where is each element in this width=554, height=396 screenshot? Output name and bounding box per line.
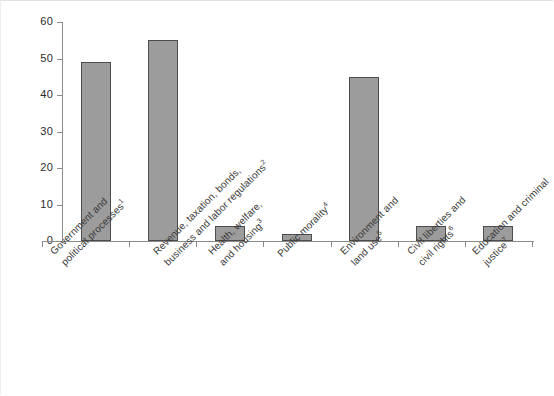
bar — [416, 226, 446, 241]
y-tick-label: 20 — [40, 161, 53, 173]
y-tick-30: 30 — [0, 132, 62, 133]
y-tick-label: 10 — [40, 198, 53, 210]
y-tick-50: 50 — [0, 59, 62, 60]
y-tick-label: 60 — [40, 15, 53, 27]
y-tick-label: 40 — [40, 88, 53, 100]
y-tick-20: 20 — [0, 168, 62, 169]
x-tick-mark — [532, 241, 533, 247]
y-tick-label: 0 — [47, 234, 53, 246]
y-tick-10: 10 — [0, 205, 62, 206]
x-tick-mark — [465, 241, 466, 247]
x-tick-mark — [129, 241, 130, 247]
y-tick-40: 40 — [0, 95, 62, 96]
bar — [215, 226, 245, 241]
y-tick-label: 30 — [40, 125, 53, 137]
bar — [349, 77, 379, 241]
x-tick-mark — [398, 241, 399, 247]
x-axis-line — [42, 241, 534, 242]
bar-chart: 0102030405060 Government andpolitical pr… — [0, 0, 554, 396]
bar — [81, 62, 111, 241]
x-tick-mark — [196, 241, 197, 247]
y-tick-label: 50 — [40, 52, 53, 64]
bars-group — [62, 22, 532, 241]
bar — [483, 226, 513, 241]
bar — [282, 234, 312, 241]
y-tick-60: 60 — [0, 22, 62, 23]
x-tick-mark — [331, 241, 332, 247]
bar — [148, 40, 178, 241]
x-tick-mark — [42, 241, 43, 247]
x-tick-mark — [263, 241, 264, 247]
